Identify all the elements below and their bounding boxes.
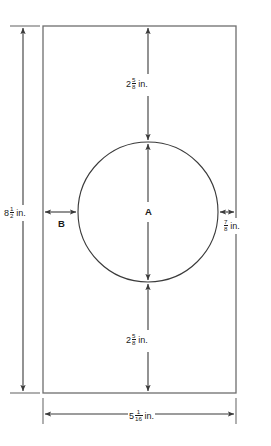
right-gap-denominator: 8 [224, 226, 228, 232]
left-gap-unknown-label: B [56, 218, 67, 230]
bottom-gap-fraction: 58 [132, 333, 136, 347]
width-dimension-label: 5116in. [128, 408, 155, 424]
width-fraction: 116 [135, 409, 143, 423]
height-dimension-label: 812in. [3, 205, 27, 221]
height-denominator: 2 [10, 213, 14, 219]
right-gap-fraction: 78 [224, 219, 228, 233]
width-whole-number: 5 [129, 411, 134, 421]
diameter-unknown-label: A [143, 206, 154, 218]
bottom-gap-dimension-label: 258in. [125, 332, 149, 348]
width-unit: in. [145, 411, 155, 421]
height-fraction: 12 [10, 206, 14, 220]
bottom-gap-whole-number: 2 [126, 335, 131, 345]
diagram-canvas: 812in. 258in. 258in. 78in. 5116in. A B [0, 0, 271, 446]
top-gap-fraction: 58 [132, 77, 136, 91]
top-gap-unit: in. [138, 79, 148, 89]
height-whole-number: 8 [4, 208, 9, 218]
top-gap-whole-number: 2 [126, 79, 131, 89]
top-gap-denominator: 8 [132, 84, 136, 90]
right-gap-unit: in. [230, 221, 240, 231]
width-denominator: 16 [135, 416, 143, 422]
bottom-gap-unit: in. [138, 335, 148, 345]
right-gap-dimension-label: 78in. [222, 218, 241, 234]
height-unit: in. [16, 208, 26, 218]
top-gap-dimension-label: 258in. [125, 76, 149, 92]
bottom-gap-denominator: 8 [132, 340, 136, 346]
